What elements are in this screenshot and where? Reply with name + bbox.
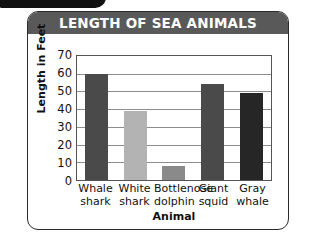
- x-axis-tick-label-line: White: [115, 183, 154, 196]
- bar: [162, 166, 185, 180]
- corner-badge: [0, 0, 107, 8]
- y-axis-tick-label: 70: [57, 48, 72, 62]
- bar: [124, 111, 147, 180]
- x-axis-tick-label-line: Gray: [233, 183, 272, 196]
- x-axis-title: Animal: [76, 210, 272, 223]
- y-axis-tick-label: 0: [65, 174, 72, 188]
- x-axis-tick-label-line: dolphin: [154, 196, 194, 209]
- y-axis-tick-label: 40: [57, 102, 72, 116]
- x-axis-tick-labels: WhalesharkWhitesharkBottlenosedolphinGia…: [76, 183, 272, 208]
- bar: [201, 84, 224, 180]
- x-axis-tick-label-line: whale: [233, 196, 272, 209]
- x-axis-tick-label: Whiteshark: [115, 183, 154, 208]
- y-axis-title: Length in Feet: [35, 23, 48, 115]
- chart-card: LENGTH OF SEA ANIMALS Length in Feet 706…: [27, 11, 289, 230]
- x-axis-tick-label: Graywhale: [233, 183, 272, 208]
- x-axis-tick-label-line: shark: [115, 196, 154, 209]
- x-axis-tick-label-line: shark: [76, 196, 115, 209]
- x-axis-tick-label: Giantsquid: [194, 183, 233, 208]
- x-axis-tick-label: Whaleshark: [76, 183, 115, 208]
- y-axis-ticks: 706050403020100: [50, 55, 72, 181]
- x-axis-tick-label-line: squid: [194, 196, 233, 209]
- y-axis-tick-label: 10: [57, 156, 72, 170]
- chart-body: Length in Feet 706050403020100 Whaleshar…: [28, 34, 288, 230]
- x-axis-tick-label-line: Bottlenose: [154, 183, 194, 196]
- y-axis-tick-label: 60: [57, 66, 72, 80]
- bar-series: [77, 56, 271, 180]
- y-axis-tick-label: 20: [57, 138, 72, 152]
- x-axis-tick-label: Bottlenosedolphin: [154, 183, 194, 208]
- plot-area: [76, 55, 272, 181]
- y-axis-tick-label: 50: [57, 84, 72, 98]
- x-axis-tick-label-line: Giant: [194, 183, 233, 196]
- x-axis-tick-label-line: Whale: [76, 183, 115, 196]
- bar: [85, 74, 108, 180]
- chart-title: LENGTH OF SEA ANIMALS: [28, 12, 288, 34]
- bar: [240, 93, 263, 180]
- y-axis-tick-label: 30: [57, 120, 72, 134]
